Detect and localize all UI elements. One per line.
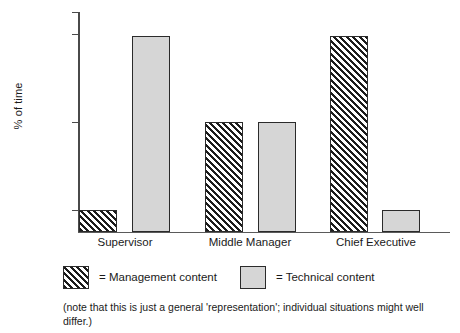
bars-layer <box>0 0 460 232</box>
bar-chief-executive-management <box>330 36 368 232</box>
chart-footnote: (note that this is just a general 'repre… <box>63 301 438 328</box>
legend-label-technical: = Technical content <box>276 271 375 283</box>
legend-item-management: = Management content <box>63 264 217 290</box>
legend-swatch-management-icon <box>63 266 89 289</box>
bar-chief-executive-technical <box>382 210 420 232</box>
bar-supervisor-management <box>79 210 117 232</box>
x-axis-label-middle-manager: Middle Manager <box>190 236 310 248</box>
plot-area: % of time 100 90 50 10 Super <box>0 0 460 245</box>
x-axis-label-supervisor: Supervisor <box>75 236 175 248</box>
legend-swatch-technical-icon <box>240 266 266 289</box>
bar-middle-manager-technical <box>258 122 296 232</box>
x-axis-label-chief-executive: Chief Executive <box>316 236 436 248</box>
legend-label-management: = Management content <box>99 271 217 283</box>
bar-middle-manager-management <box>205 122 243 232</box>
legend-item-technical: = Technical content <box>240 264 375 290</box>
chart-legend: = Management content = Technical content <box>0 264 460 296</box>
bar-supervisor-technical <box>132 36 170 232</box>
bar-chart-figure: % of time 100 90 50 10 Super <box>0 0 460 333</box>
